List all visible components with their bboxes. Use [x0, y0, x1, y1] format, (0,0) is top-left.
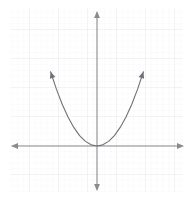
graph-figure — [0, 0, 192, 203]
coordinate-plane-plot — [0, 0, 192, 203]
